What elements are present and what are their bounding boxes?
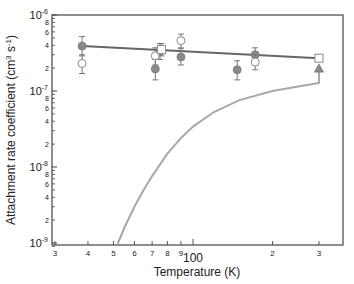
x-tick-label: 5 <box>111 249 116 258</box>
chart: 10-6246810-7246810-8246810-9 34567891002… <box>0 0 354 284</box>
x-tick-label: 7 <box>150 249 155 258</box>
plot-frame <box>52 15 343 245</box>
y-minor-tick-label: 6 <box>45 105 49 112</box>
y-minor-tick-label: 4 <box>45 194 49 201</box>
x-tick-label: 100 <box>183 251 203 265</box>
y-minor-tick-label: 2 <box>45 65 49 72</box>
y-minor-tick-label: 2 <box>45 217 49 224</box>
y-minor-tick-label: 2 <box>45 141 49 148</box>
y-minor-tick-label: 8 <box>45 19 49 26</box>
y-axis-label: Attachment rate coefficient (cm3 s-1) <box>4 35 18 225</box>
x-tick-label: 3 <box>53 249 58 258</box>
x-tick-label: 6 <box>132 249 137 258</box>
data-point-open-square <box>158 44 166 56</box>
x-tick-label: 3 <box>317 249 322 258</box>
x-tick-label: 4 <box>86 249 91 258</box>
data-point-open-square <box>315 54 323 62</box>
x-tick-label: 8 <box>165 249 170 258</box>
y-tick-label: 10-9 <box>30 236 49 249</box>
y-minor-tick-label: 6 <box>45 181 49 188</box>
x-axis-label: Temperature (K) <box>154 265 241 279</box>
y-minor-tick-label: 8 <box>45 95 49 102</box>
x-tick-label: 2 <box>270 249 275 258</box>
y-minor-tick-label: 4 <box>45 118 49 125</box>
y-minor-tick-label: 8 <box>45 171 49 178</box>
y-minor-tick-label: 6 <box>45 29 49 36</box>
y-minor-tick-label: 4 <box>45 42 49 49</box>
